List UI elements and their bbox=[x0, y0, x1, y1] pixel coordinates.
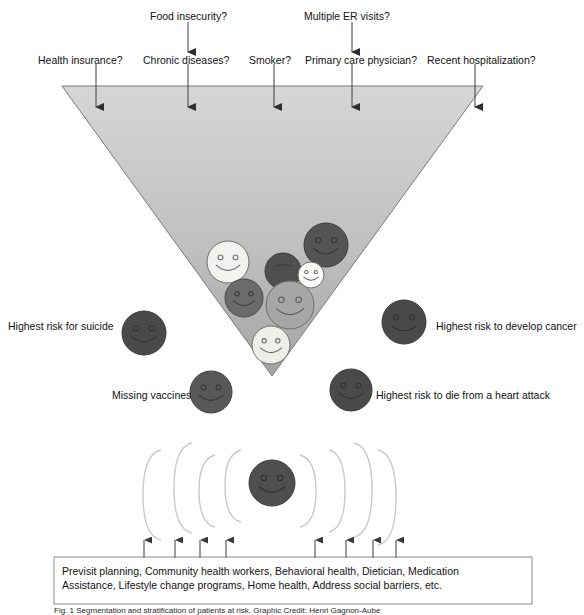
risk-label-highest-risk-cancer: Highest risk to develop cancer bbox=[436, 320, 577, 332]
bracket-right-3 bbox=[354, 443, 372, 537]
question-label-recent-hospitalization: Recent hospitalization? bbox=[427, 54, 536, 66]
patient-face-face-dark-2-circle bbox=[304, 223, 348, 267]
bracket-right-1 bbox=[300, 455, 316, 527]
patient-face-face-mid-dark bbox=[225, 279, 263, 317]
question-label-chronic-diseases: Chronic diseases? bbox=[143, 54, 229, 66]
bracket-right-2 bbox=[329, 450, 345, 532]
risk-face-highest-risk-heart-attack bbox=[330, 369, 372, 411]
center-patient-face-circle bbox=[249, 460, 295, 506]
figure-caption: Fig. 1 Segmentation and stratification o… bbox=[54, 606, 534, 615]
risk-face-highest-risk-suicide-circle bbox=[122, 311, 166, 355]
risk-face-missing-vaccines-circle bbox=[190, 371, 232, 413]
bracket-left-2 bbox=[174, 443, 192, 533]
bracket-left-1 bbox=[143, 450, 161, 540]
center-patient-face bbox=[249, 460, 295, 506]
intervention-box-text: Previsit planning, Community health work… bbox=[62, 565, 517, 592]
question-label-multiple-er-visits: Multiple ER visits? bbox=[304, 10, 390, 22]
diagram-graphics bbox=[0, 0, 584, 615]
patient-face-face-light-2 bbox=[252, 326, 290, 364]
patient-face-face-light-1-circle bbox=[207, 241, 249, 283]
bracket-right-4 bbox=[378, 450, 396, 545]
patient-face-face-dark-2 bbox=[304, 223, 348, 267]
risk-face-missing-vaccines bbox=[190, 371, 232, 413]
risk-label-missing-vaccines: Missing vaccines bbox=[112, 389, 191, 401]
patient-face-face-mid-gray bbox=[266, 281, 314, 329]
patient-face-face-mid-dark-circle bbox=[225, 279, 263, 317]
risk-label-highest-risk-suicide: Highest risk for suicide bbox=[8, 320, 114, 332]
bracket-left-3 bbox=[199, 455, 215, 527]
question-label-primary-care-physician: Primary care physician? bbox=[305, 54, 417, 66]
question-label-health-insurance: Health insurance? bbox=[38, 54, 123, 66]
risk-face-highest-risk-heart-attack-circle bbox=[330, 369, 372, 411]
risk-label-highest-risk-heart-attack: Highest risk to die from a heart attack bbox=[376, 389, 550, 401]
patient-face-face-light-1 bbox=[207, 241, 249, 283]
figure-canvas: Highest risk for suicideHighest risk to … bbox=[0, 0, 584, 615]
risk-face-highest-risk-cancer-circle bbox=[382, 300, 426, 344]
question-label-food-insecurity: Food insecurity? bbox=[150, 10, 227, 22]
patient-face-face-mid-gray-circle bbox=[266, 281, 314, 329]
question-label-smoker: Smoker? bbox=[249, 54, 291, 66]
bracket-left-4 bbox=[225, 450, 241, 522]
intervention-line-2: Assistance, Lifestyle change programs, H… bbox=[62, 579, 517, 593]
patient-face-face-light-2-circle bbox=[252, 326, 290, 364]
risk-face-highest-risk-cancer bbox=[382, 300, 426, 344]
risk-face-highest-risk-suicide bbox=[122, 311, 166, 355]
intervention-line-1: Previsit planning, Community health work… bbox=[62, 565, 517, 579]
